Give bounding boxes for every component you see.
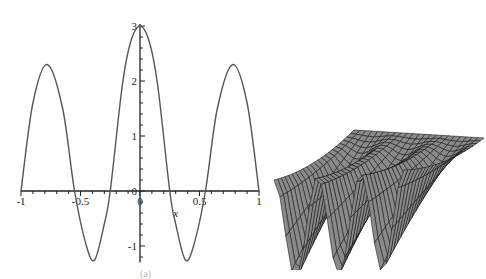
y-tick-label: 1 [132,130,138,142]
x-tick-label: -1 [16,195,25,207]
surface-mesh [274,130,484,270]
y-tick-label: -1 [128,240,137,252]
y-tick-label: 2 [132,75,138,87]
figure-caption: (a) [140,268,151,279]
x-tick-label: 0 [137,195,143,207]
y-tick-label: 0 [132,185,138,197]
surface-plot-3d [260,90,486,270]
line-chart: -1-0.500.51-10123x [0,0,270,276]
x-tick-label: -0.5 [72,195,90,207]
